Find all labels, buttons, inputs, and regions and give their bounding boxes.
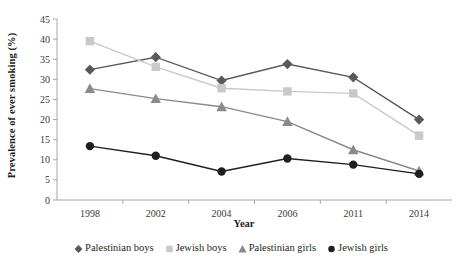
series-marker-square [152, 63, 160, 71]
series-marker-circle [349, 160, 357, 168]
y-axis-tick-label: 15 [40, 134, 50, 145]
chart-container: Prevalence of ever smoking (%) 051015202… [0, 0, 462, 271]
legend-item-label: Palestinian girls [249, 243, 316, 254]
legend-item[interactable]: Jewish girls [327, 243, 388, 254]
series-marker-square [86, 37, 94, 45]
series-marker-circle [152, 152, 160, 160]
y-axis-tick-label: 0 [45, 195, 50, 206]
y-axis-tick-label: 20 [40, 114, 50, 125]
legend-marker-square-icon [165, 244, 174, 253]
series-marker-square [349, 89, 357, 97]
y-axis-tick-label: 45 [40, 14, 50, 25]
series-marker-circle [283, 154, 291, 162]
legend-item[interactable]: Palestinian boys [74, 243, 154, 254]
series-marker-circle [328, 245, 334, 251]
x-axis-title: Year [0, 218, 462, 229]
series-marker-diamond [282, 59, 292, 69]
series-marker-diamond [85, 65, 95, 75]
legend-marker-diamond-icon [74, 244, 83, 253]
series-marker-triangle [238, 245, 246, 252]
y-axis-tick-label: 5 [45, 174, 50, 185]
y-axis-tick-label: 25 [40, 94, 50, 105]
legend-marker-triangle-icon [238, 244, 247, 253]
legend-item-label: Palestinian boys [85, 243, 154, 254]
series-marker-diamond [414, 114, 424, 124]
series-marker-diamond [151, 52, 161, 62]
chart-series [85, 83, 425, 175]
x-axis-title-text: Year [208, 218, 255, 229]
chart-plot-area: 0510152025303540451998200220042006201120… [0, 0, 462, 271]
series-marker-diamond [348, 72, 358, 82]
legend-item-label: Jewish girls [338, 243, 388, 254]
legend-item[interactable]: Palestinian girls [238, 243, 316, 254]
y-axis-tick-label: 30 [40, 74, 50, 85]
series-marker-triangle [348, 144, 359, 154]
series-marker-circle [217, 167, 225, 175]
series-marker-circle [86, 142, 94, 150]
series-marker-square [415, 131, 423, 139]
series-marker-triangle [85, 83, 96, 93]
series-line [90, 146, 419, 174]
legend-item[interactable]: Jewish boys [165, 243, 227, 254]
series-marker-square [283, 87, 291, 95]
legend-marker-circle-icon [327, 244, 336, 253]
y-axis-tick-label: 35 [40, 54, 50, 65]
y-axis-tick-label: 40 [40, 34, 50, 45]
series-marker-circle [415, 170, 423, 178]
legend-item-label: Jewish boys [176, 243, 227, 254]
chart-legend: Palestinian boysJewish boysPalestinian g… [0, 243, 462, 254]
series-marker-diamond [75, 245, 83, 253]
series-line [90, 57, 419, 119]
y-axis-tick-label: 10 [40, 154, 50, 165]
chart-series [86, 37, 424, 140]
series-marker-square [217, 84, 225, 92]
series-line [90, 89, 419, 171]
chart-series [86, 142, 424, 178]
series-marker-square [166, 245, 172, 251]
